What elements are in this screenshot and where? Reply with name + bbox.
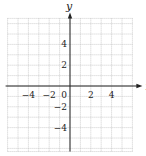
coordinate-grid-chart: x y −4−2024 42−2−4 [0, 0, 146, 156]
x-tick-label: 4 [109, 90, 115, 100]
x-tick-label: −4 [22, 90, 36, 100]
x-tick-label: −2 [43, 90, 56, 100]
x-axis-label: x [145, 80, 146, 93]
x-tick-label: 0 [61, 90, 67, 100]
y-tick-label: 4 [61, 39, 67, 49]
y-tick-label: −4 [54, 123, 68, 133]
x-tick-label: 2 [88, 90, 94, 100]
y-tick-label: 2 [61, 60, 67, 70]
y-axis-label: y [65, 0, 73, 13]
x-axis-arrow-icon [136, 84, 142, 88]
y-tick-label: −2 [54, 102, 67, 112]
x-tick-labels: −4−2024 [22, 90, 115, 100]
